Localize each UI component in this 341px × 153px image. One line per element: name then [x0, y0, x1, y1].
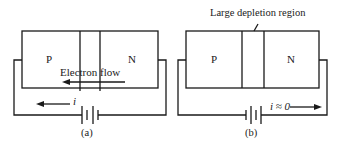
diagram-b-current-arrowhead-icon: [314, 104, 322, 110]
diagram-a-caption: (a): [81, 128, 93, 139]
diagram-b-graphics: [178, 24, 327, 124]
diagram-b-p-label: P: [211, 54, 217, 65]
pn-junction-diagrams: [0, 0, 341, 153]
diagram-a-n-label: N: [128, 54, 136, 65]
diagram-a-junction-block: [22, 31, 158, 88]
diagram-a-battery-icon: [82, 106, 98, 124]
diagram-b-depletion-pointer: [254, 24, 258, 31]
diagram-a-current-arrowhead-icon: [36, 101, 44, 107]
diagram-a-current-label: i: [73, 96, 76, 107]
diagram-b-n-label: N: [287, 54, 295, 65]
diagram-b-caption: (b): [245, 128, 257, 139]
diagram-a-electron-flow-arrowhead-icon: [62, 79, 70, 85]
diagram-b-depletion-label: Large depletion region: [210, 8, 305, 19]
diagram-a-electron-flow-label: Electron flow: [60, 67, 120, 78]
diagram-b-current-label: i ≈ 0: [270, 101, 290, 112]
diagram-b-junction-block: [186, 31, 319, 88]
diagram-a-p-label: P: [46, 54, 52, 65]
diagram-b-battery-icon: [246, 106, 261, 124]
